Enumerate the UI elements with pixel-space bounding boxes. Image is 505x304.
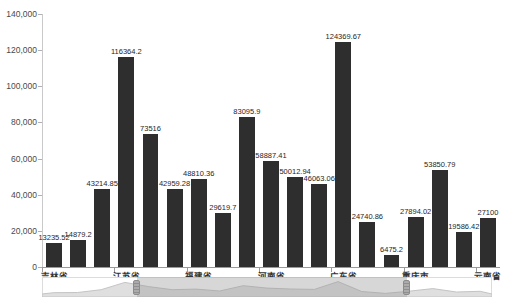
bar[interactable] bbox=[191, 179, 207, 267]
bar[interactable] bbox=[311, 184, 327, 267]
bar-value-label: 24740.86 bbox=[352, 212, 383, 221]
bar[interactable] bbox=[263, 161, 279, 267]
y-axis-tick-label: 20,000 bbox=[0, 226, 37, 236]
bar[interactable] bbox=[239, 117, 255, 267]
y-axis-tick-label: 140,000 bbox=[0, 9, 37, 19]
bar-value-label: 83095.9 bbox=[233, 107, 260, 116]
bar-chart: 020,00040,00060,00080,000100,000120,0001… bbox=[0, 0, 505, 304]
datazoom-handle-right[interactable] bbox=[403, 280, 410, 295]
bar-value-label: 42959.28 bbox=[159, 179, 190, 188]
bar-value-label: 58887.41 bbox=[255, 151, 286, 160]
y-axis-tick-label: 0 bbox=[0, 262, 37, 272]
bar[interactable] bbox=[384, 255, 400, 267]
bar-value-label: 124369.67 bbox=[326, 32, 361, 41]
datazoom-selected-window[interactable] bbox=[137, 277, 407, 297]
bar[interactable] bbox=[70, 240, 86, 267]
bar-value-label: 29619.7 bbox=[209, 203, 236, 212]
bar[interactable] bbox=[456, 232, 472, 267]
x-axis-line bbox=[42, 267, 500, 268]
y-axis-tick-label: 100,000 bbox=[0, 81, 37, 91]
bar-value-label: 53850.79 bbox=[424, 160, 455, 169]
bar-value-label: 116364.2 bbox=[111, 47, 142, 56]
bar[interactable] bbox=[118, 57, 134, 267]
bar[interactable] bbox=[167, 189, 183, 267]
datazoom-handle-left[interactable] bbox=[133, 280, 140, 295]
bar[interactable] bbox=[143, 134, 159, 267]
bar[interactable] bbox=[287, 177, 303, 267]
y-axis-tick-label: 40,000 bbox=[0, 190, 37, 200]
bar-value-label: 43214.85 bbox=[87, 179, 118, 188]
bar[interactable] bbox=[94, 189, 110, 267]
y-axis-tick-label: 120,000 bbox=[0, 45, 37, 55]
bar-value-label: 14879.2 bbox=[65, 230, 92, 239]
y-axis-tick-label: 80,000 bbox=[0, 117, 37, 127]
bar[interactable] bbox=[46, 243, 62, 267]
bar-value-label: 6475.2 bbox=[380, 245, 403, 254]
bar-value-label: 46063.06 bbox=[304, 174, 335, 183]
bar[interactable] bbox=[432, 170, 448, 267]
bar[interactable] bbox=[408, 217, 424, 267]
y-axis-tick-label: 60,000 bbox=[0, 154, 37, 164]
bar-value-label: 48810.36 bbox=[183, 169, 214, 178]
bar-value-label: 27894.02 bbox=[400, 207, 431, 216]
bar[interactable] bbox=[335, 42, 351, 267]
bar-value-label: 27100 bbox=[478, 208, 499, 217]
bar[interactable] bbox=[215, 213, 231, 267]
bar[interactable] bbox=[359, 222, 375, 267]
bar-value-label: 19586.42 bbox=[448, 222, 479, 231]
y-axis-line bbox=[42, 14, 43, 267]
bar-value-label: 73516 bbox=[140, 124, 161, 133]
bar[interactable] bbox=[480, 218, 496, 267]
